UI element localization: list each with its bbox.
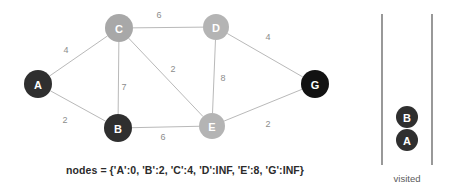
graph-edge-b-e — [132, 126, 199, 127]
graph-edge-c-e — [129, 38, 203, 116]
edge-weight-c-e: 2 — [170, 64, 175, 74]
edge-weight-c-d: 6 — [156, 10, 161, 20]
edge-weights-layer: 426728462 — [62, 10, 270, 142]
visited-node-label-b: B — [403, 112, 411, 124]
graph-edge-c-d — [133, 27, 203, 28]
node-label-c: C — [115, 23, 123, 35]
graph-node-g[interactable]: G — [301, 70, 329, 98]
dijkstra-graph-figure: 426728462 ABCDEG BAvisited nodes = {'A':… — [0, 0, 450, 193]
visited-node-label-a: A — [403, 135, 411, 147]
edge-weight-a-b: 2 — [62, 115, 67, 125]
graph-node-d[interactable]: D — [203, 14, 229, 40]
visited-node-a[interactable]: A — [396, 129, 418, 151]
node-label-e: E — [208, 121, 215, 133]
graph-edge-a-b — [50, 91, 105, 122]
graph-edge-c-b — [118, 42, 119, 114]
graph-node-a[interactable]: A — [24, 70, 52, 98]
graph-node-c[interactable]: C — [105, 14, 133, 42]
edge-weight-d-g: 4 — [265, 32, 270, 42]
edge-weight-c-b: 7 — [121, 82, 126, 92]
node-label-b: B — [114, 123, 122, 135]
node-label-d: D — [212, 22, 220, 34]
node-label-a: A — [34, 79, 42, 91]
nodes-layer: ABCDEG — [24, 14, 329, 142]
graph-node-e[interactable]: E — [199, 113, 225, 139]
nodes-distance-caption: nodes = {'A':0, 'B':2, 'C':4, 'D':INF, '… — [0, 164, 370, 176]
edge-weight-e-g: 2 — [265, 119, 270, 129]
edge-weight-a-c: 4 — [63, 45, 68, 55]
graph-edge-e-g — [224, 89, 302, 121]
edge-weight-b-e: 6 — [160, 132, 165, 142]
edge-weight-d-e: 8 — [220, 73, 225, 83]
edges-layer — [50, 27, 303, 128]
visited-stack-layer: BAvisited — [382, 14, 432, 184]
node-label-g: G — [311, 79, 320, 91]
graph-edge-a-c — [50, 36, 108, 76]
visited-node-b[interactable]: B — [396, 106, 418, 128]
graph-edge-d-e — [213, 40, 216, 113]
visited-stack-label: visited — [394, 173, 421, 184]
graph-node-b[interactable]: B — [104, 114, 132, 142]
